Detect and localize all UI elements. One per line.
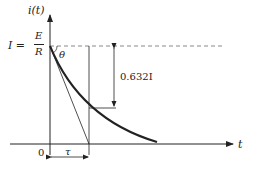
decay-curve bbox=[50, 46, 157, 142]
fraction-bar bbox=[34, 44, 44, 45]
y-axis-label: i(t) bbox=[28, 5, 45, 16]
angle-label: θ bbox=[59, 50, 65, 60]
tau-label: τ bbox=[65, 147, 71, 157]
origin-label: 0 bbox=[38, 148, 44, 158]
initial-value-denominator: R bbox=[35, 47, 43, 57]
initial-value-lhs: I = bbox=[8, 40, 25, 51]
tangent-line bbox=[50, 46, 89, 144]
x-axis-label: t bbox=[238, 139, 242, 150]
amplitude-label: 0.632I bbox=[120, 72, 153, 82]
initial-value-numerator: E bbox=[35, 31, 42, 41]
